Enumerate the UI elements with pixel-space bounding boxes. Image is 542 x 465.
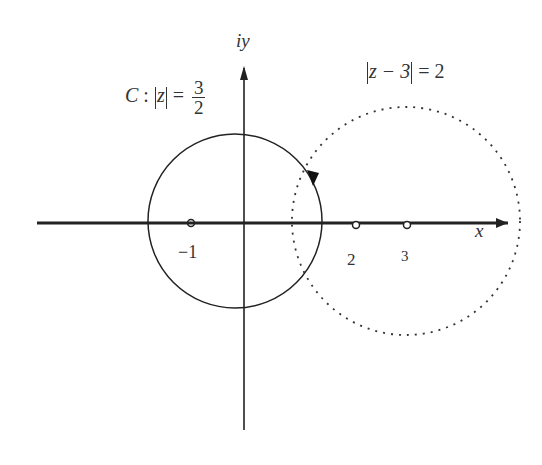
tick-label-2: 2 [347,250,356,270]
y-axis-label: iy [236,30,250,52]
complex-plane-diagram [0,0,542,465]
circle-2-inner: z − 3 [369,60,410,82]
x-axis-label: x [475,220,483,242]
radius-fraction: 3 2 [192,78,206,117]
orientation-arrow-icon [307,170,319,186]
point-2 [353,222,360,229]
contour-c-circle [148,134,322,308]
contour-name: C [125,84,138,106]
contour-lhs: z [157,84,165,106]
tick-label-minus-1: −1 [178,242,197,263]
contour-c-equation: C : z = 3 2 [125,78,205,117]
circle-2-equation: z − 3 = 2 [366,60,445,84]
imaginary-axis-arrow-icon [240,66,248,80]
real-axis-arrow-icon [496,218,508,228]
point-3 [404,222,411,229]
tick-label-3: 3 [401,248,409,265]
